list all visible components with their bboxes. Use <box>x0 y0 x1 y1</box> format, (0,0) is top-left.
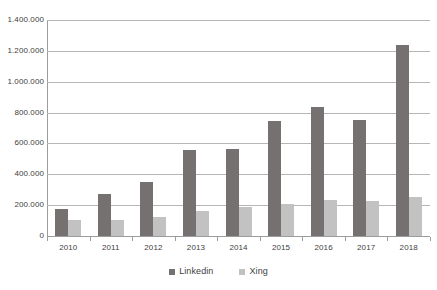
bar-linkedin-2010[interactable] <box>55 209 68 236</box>
x-minor-tick <box>132 237 133 241</box>
bar-xing-2013[interactable] <box>196 211 209 236</box>
y-axis-labels: 0200.000400.000600.000800.0001.000.0001.… <box>0 0 44 290</box>
bar-linkedin-2012[interactable] <box>140 182 153 236</box>
x-tick-label-2014: 2014 <box>217 243 260 252</box>
bar-xing-2011[interactable] <box>111 220 124 236</box>
y-tick-label: 1.000.000 <box>0 78 44 86</box>
legend-item-xing[interactable]: Xing <box>239 267 267 276</box>
y-tick-label: 0 <box>0 232 44 240</box>
x-minor-tick <box>430 237 431 241</box>
x-minor-tick <box>345 237 346 241</box>
bar-linkedin-2011[interactable] <box>98 194 111 236</box>
x-minor-tick <box>217 237 218 241</box>
plot-area <box>47 20 430 236</box>
legend-swatch-xing <box>239 269 245 275</box>
bar-xing-2016[interactable] <box>324 200 337 236</box>
bar-xing-2014[interactable] <box>239 207 252 236</box>
x-minor-tick <box>387 237 388 241</box>
x-tick-label-2015: 2015 <box>260 243 303 252</box>
x-minor-tick <box>302 237 303 241</box>
x-tick-label-2018: 2018 <box>387 243 430 252</box>
bar-linkedin-2016[interactable] <box>311 107 324 236</box>
bar-linkedin-2015[interactable] <box>268 121 281 236</box>
y-tick-label: 400.000 <box>0 170 44 178</box>
legend-label-xing: Xing <box>249 267 267 276</box>
x-minor-tick <box>47 237 48 241</box>
x-tick-label-2011: 2011 <box>90 243 133 252</box>
x-minor-tick <box>90 237 91 241</box>
bar-group <box>396 20 422 236</box>
bar-group <box>98 20 124 236</box>
bar-group <box>55 20 81 236</box>
legend-label-linkedin: Linkedin <box>179 267 213 276</box>
bar-linkedin-2013[interactable] <box>183 150 196 236</box>
x-axis-line <box>47 236 430 237</box>
y-tick-label: 1.400.000 <box>0 16 44 24</box>
bar-xing-2010[interactable] <box>68 220 81 236</box>
x-tick-label-2013: 2013 <box>175 243 218 252</box>
x-tick-label-2016: 2016 <box>302 243 345 252</box>
y-tick-label: 1.200.000 <box>0 47 44 55</box>
y-tick-label: 600.000 <box>0 139 44 147</box>
bar-group <box>353 20 379 236</box>
legend-swatch-linkedin <box>169 269 175 275</box>
x-tick-label-2017: 2017 <box>345 243 388 252</box>
legend-item-linkedin[interactable]: Linkedin <box>169 267 213 276</box>
x-minor-tick <box>260 237 261 241</box>
bar-group <box>183 20 209 236</box>
bar-group <box>226 20 252 236</box>
x-tick-label-2010: 2010 <box>47 243 90 252</box>
bar-linkedin-2014[interactable] <box>226 149 239 236</box>
bar-group <box>140 20 166 236</box>
bar-linkedin-2017[interactable] <box>353 120 366 236</box>
bar-group <box>268 20 294 236</box>
bar-xing-2015[interactable] <box>281 204 294 236</box>
x-minor-tick <box>175 237 176 241</box>
bar-group <box>311 20 337 236</box>
chart-legend: LinkedinXing <box>0 267 437 276</box>
x-tick-label-2012: 2012 <box>132 243 175 252</box>
bar-chart: 0200.000400.000600.000800.0001.000.0001.… <box>0 0 437 290</box>
bar-linkedin-2018[interactable] <box>396 45 409 236</box>
bar-xing-2018[interactable] <box>409 197 422 236</box>
y-tick-label: 800.000 <box>0 109 44 117</box>
bar-xing-2017[interactable] <box>366 201 379 236</box>
y-tick-label: 200.000 <box>0 201 44 209</box>
bar-xing-2012[interactable] <box>153 217 166 236</box>
